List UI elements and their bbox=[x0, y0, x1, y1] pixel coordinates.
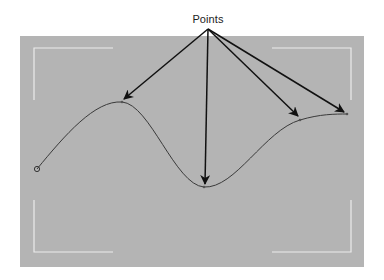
viewport-background bbox=[20, 36, 364, 267]
peak-point-icon bbox=[121, 101, 124, 104]
curve-diagram bbox=[0, 0, 384, 280]
trough-point-icon bbox=[203, 186, 206, 189]
end-point-icon bbox=[346, 113, 349, 116]
points-label: Points bbox=[178, 13, 238, 25]
rising-point-icon bbox=[299, 119, 302, 122]
